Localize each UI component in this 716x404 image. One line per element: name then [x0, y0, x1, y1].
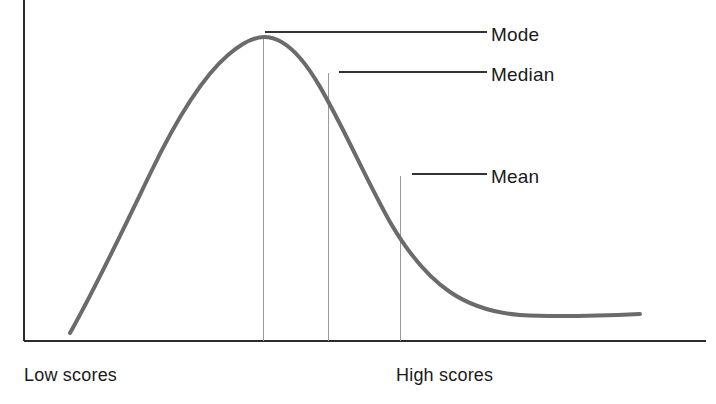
skewed-distribution-chart: Mode Median Mean Low scores High scores: [0, 0, 716, 404]
x-axis-low-scores-label: Low scores: [24, 366, 117, 384]
x-axis-high-scores-label: High scores: [396, 366, 493, 384]
mode-annotation-label: Mode: [491, 25, 539, 44]
median-annotation-label: Median: [491, 65, 555, 84]
mean-annotation-label: Mean: [491, 167, 539, 186]
chart-canvas: [0, 0, 716, 404]
